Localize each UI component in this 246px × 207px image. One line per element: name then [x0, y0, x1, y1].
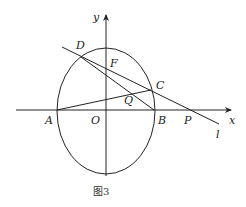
point-label-d: D — [75, 39, 85, 52]
line-l — [62, 47, 219, 124]
x-axis-label: x — [229, 114, 236, 127]
segment-ac — [57, 90, 151, 110]
ellipse-diagram: y x D F C Q A O B P l 图3 — [0, 0, 246, 207]
figure-caption: 图3 — [93, 186, 109, 197]
point-label-c: C — [156, 79, 165, 92]
point-label-q: Q — [124, 94, 133, 107]
point-label-p: P — [183, 114, 192, 127]
y-axis-label: y — [92, 11, 100, 24]
point-label-a: A — [44, 114, 53, 127]
point-label-f: F — [109, 57, 118, 70]
line-label-l: l — [216, 128, 220, 141]
point-label-b: B — [157, 114, 166, 127]
point-label-o: O — [91, 114, 100, 127]
